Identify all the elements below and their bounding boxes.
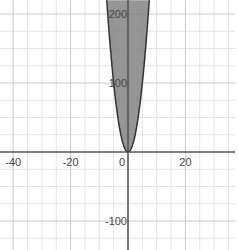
x-tick-label: 0: [119, 156, 125, 168]
y-tick-label: 200: [109, 8, 127, 20]
x-tick-label: -40: [5, 156, 21, 168]
y-tick-label: -100: [105, 215, 127, 227]
graph-canvas[interactable]: -40-20020200100-100: [0, 0, 238, 250]
x-tick-label: 20: [179, 156, 191, 168]
x-tick-label: -20: [63, 156, 79, 168]
y-tick-label: 100: [109, 77, 127, 89]
